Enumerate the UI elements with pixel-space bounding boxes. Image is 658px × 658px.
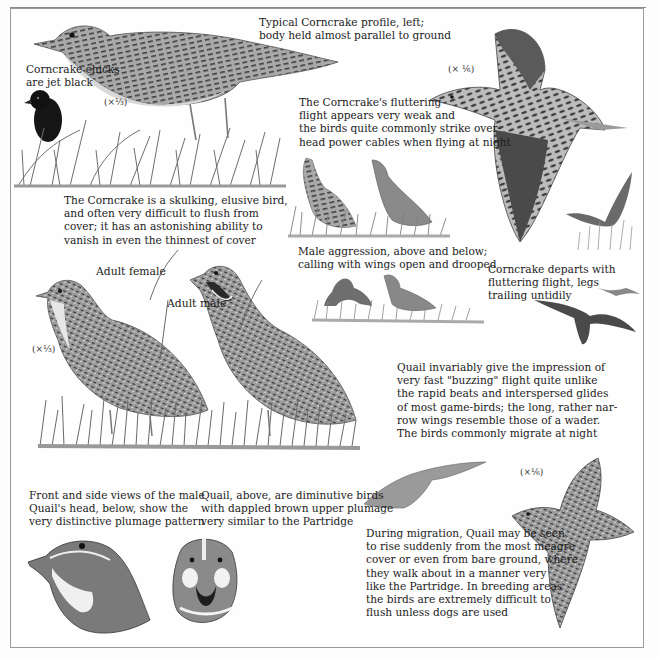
corncrake-departing-illustration	[566, 172, 632, 250]
corncrake-profile-caption: Typical Corncrake profile, left; body he…	[259, 16, 451, 42]
quail-male-illustration	[190, 266, 356, 436]
corncrake-calling-illustration	[288, 158, 450, 236]
quail-male-label: Adult male	[167, 297, 226, 310]
corncrake-chicks-caption: Corncrake chicks are jet black	[26, 63, 120, 89]
corncrake-skulking-caption: The Corncrake is a skulking, elusive bir…	[64, 194, 288, 247]
corncrake-flight-caption: The Corncrake's fluttering flight appear…	[299, 96, 511, 149]
quail-head-front-illustration	[173, 538, 237, 623]
illustration-plate: Typical Corncrake profile, left; body he…	[0, 0, 658, 658]
quail-heads-caption: Front and side views of the male Quail's…	[29, 489, 205, 529]
corncrake-aggression-illustration	[312, 275, 484, 322]
quail-diminutive-caption: Quail, above, are diminutive birds with …	[201, 489, 393, 529]
quail-female-label: Adult female	[96, 265, 166, 278]
corncrake-aggression-caption: Male aggression, above and below; callin…	[298, 245, 497, 271]
quail-standing-scale: (×¹⁄₃)	[32, 344, 55, 354]
corncrake-departs-caption: Corncrake departs with fluttering flight…	[488, 263, 616, 303]
quail-flight-scale: (×¹⁄₆)	[520, 467, 543, 477]
quail-head-side-illustration	[28, 541, 150, 633]
corncrake-flight-scale: (× ¹⁄₆)	[448, 64, 474, 74]
corncrake-standing-scale: (×¹⁄₃)	[104, 97, 127, 107]
quail-buzzing-caption: Quail invariably give the impression of …	[397, 361, 617, 440]
quail-migration-caption: During migration, Quail may be seen to r…	[366, 527, 578, 619]
